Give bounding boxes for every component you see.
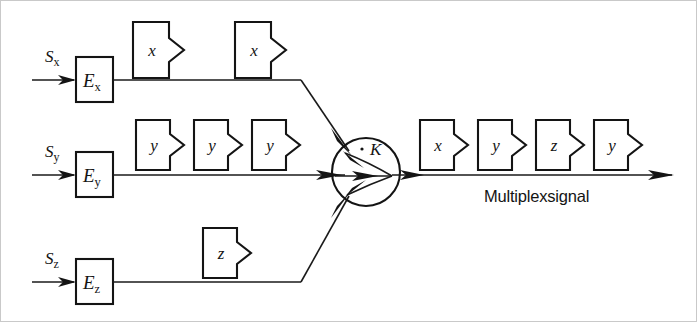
encoder-label-y: Ey: [82, 165, 102, 189]
signal-label-x: Sx: [45, 47, 60, 69]
multiplexsignal-caption: Multiplexsignal: [484, 187, 589, 205]
combiner-inner-arc-upper: [345, 153, 392, 176]
packet-x-1: x: [133, 22, 184, 78]
encoder-label-x: Ex: [82, 70, 102, 94]
packet-label: y: [264, 136, 274, 155]
packet-label: z: [217, 244, 225, 263]
packet-out-2: y: [478, 120, 526, 170]
image-border: [1, 1, 697, 322]
packet-y-1: y: [136, 120, 184, 170]
combiner-label: K: [369, 140, 383, 159]
combiner-node: K: [332, 138, 400, 206]
channel-y: Sy Ey y y y: [32, 120, 345, 197]
packet-label: y: [490, 136, 500, 155]
signal-label-y: Sy: [45, 142, 60, 164]
packet-z-1: z: [203, 228, 251, 278]
encoder-label-z: Ez: [82, 272, 101, 296]
packet-y-2: y: [194, 120, 242, 170]
packet-x-2: x: [235, 22, 286, 78]
packet-out-1: x: [420, 120, 468, 170]
packet-label: y: [606, 136, 616, 155]
combiner-inner-arc-lower: [347, 176, 392, 195]
signal-label-z: Sz: [45, 249, 59, 271]
packet-out-4: y: [594, 120, 642, 170]
packet-label: z: [550, 136, 558, 155]
packet-label: x: [249, 41, 258, 60]
channel-z: Sz Ez z: [32, 190, 352, 304]
multiplexer-diagram: Sx Ex x x: [0, 0, 697, 322]
combiner-circle: [332, 138, 400, 206]
packet-label: x: [433, 136, 442, 155]
output-section: x y z y Multiplexsignal: [392, 120, 674, 205]
combiner-dot: [360, 147, 363, 150]
connector-x-to-combiner: [301, 80, 349, 151]
packet-label: x: [147, 41, 156, 60]
channel-x: Sx Ex x x: [32, 22, 352, 156]
packet-y-3: y: [252, 120, 300, 170]
packet-label: y: [148, 136, 158, 155]
packet-out-3: z: [536, 120, 584, 170]
connector-z-to-combiner: [301, 196, 349, 282]
packet-label: y: [206, 136, 216, 155]
